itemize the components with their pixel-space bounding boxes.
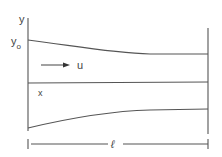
y-axis-label: y [19,13,25,25]
channel-flow-diagram: y yo u x ℓ [0,0,222,157]
y0-label: yo [11,35,22,51]
x-axis-label: x [38,88,43,98]
y0-label-sub: o [17,42,22,51]
top-wall-curve [28,40,208,54]
x-axis-line [28,82,208,83]
velocity-arrow-icon [63,63,70,68]
velocity-label: u [77,59,83,71]
length-label: ℓ [110,138,115,150]
bottom-wall-curve [28,109,208,128]
